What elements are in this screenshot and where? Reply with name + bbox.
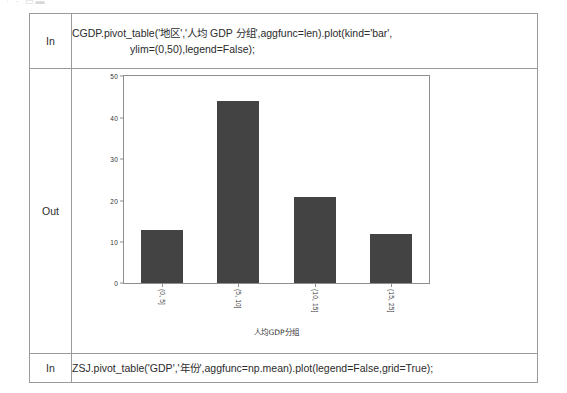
notebook-table: In CGDP.pivot_table('地区','人均 GDP 分组',agg… <box>29 13 538 383</box>
table-row-in-2: In ZSJ.pivot_table('GDP','年份',aggfunc=np… <box>30 354 538 383</box>
cell-figure-out: 01020304050(0, 5](5, 10](10, 15](15, 25]… <box>72 69 538 354</box>
clipped-header-fragment: · · ▭▬ <box>6 0 47 4</box>
y-tick-label: 30 <box>110 156 118 163</box>
code-line-1: ZSJ.pivot_table('GDP','年份',aggfunc=np.me… <box>72 362 433 374</box>
y-tick-mark <box>120 283 124 284</box>
bar <box>217 101 259 283</box>
x-tick-label: (10, 15] <box>311 289 318 313</box>
y-tick-mark <box>120 242 124 243</box>
y-tick-mark <box>120 76 124 77</box>
x-tick-mark <box>162 283 163 287</box>
table-row-out: Out 01020304050(0, 5](5, 10](10, 15](15,… <box>30 69 538 354</box>
x-tick-mark <box>391 283 392 287</box>
y-tick-label: 10 <box>110 239 118 246</box>
x-axis-label: 人均GDP分组 <box>123 326 430 337</box>
plot-area: 01020304050(0, 5](5, 10](10, 15](15, 25] <box>124 76 429 283</box>
cell-code-in-2[interactable]: ZSJ.pivot_table('GDP','年份',aggfunc=np.me… <box>72 354 538 383</box>
bar <box>370 234 412 284</box>
x-tick-label: (5, 10] <box>235 289 242 309</box>
y-tick-mark <box>120 117 124 118</box>
y-tick-label: 40 <box>110 114 118 121</box>
y-tick-label: 0 <box>114 280 118 287</box>
x-tick-mark <box>315 283 316 287</box>
y-tick-mark <box>120 200 124 201</box>
bar <box>294 197 336 284</box>
cell-code-in-1[interactable]: CGDP.pivot_table('地区','人均 GDP 分组',aggfun… <box>72 14 538 69</box>
table-row-in-1: In CGDP.pivot_table('地区','人均 GDP 分组',agg… <box>30 14 538 69</box>
x-tick-label: (0, 5] <box>159 289 166 305</box>
code-line-1: CGDP.pivot_table('地区','人均 GDP 分组',aggfun… <box>72 27 392 39</box>
y-tick-label: 20 <box>110 197 118 204</box>
bar <box>141 230 183 284</box>
cell-label-in-1: In <box>30 14 72 69</box>
x-tick-label: (15, 25] <box>387 289 394 313</box>
cell-label-out: Out <box>30 69 72 354</box>
y-tick-mark <box>120 159 124 160</box>
cell-label-in-2: In <box>30 354 72 383</box>
x-tick-mark <box>238 283 239 287</box>
y-tick-label: 50 <box>110 73 118 80</box>
bar-chart: 01020304050(0, 5](5, 10](10, 15](15, 25]… <box>72 70 537 352</box>
code-line-2: ylim=(0,50),legend=False); <box>72 41 537 57</box>
plot-frame: 01020304050(0, 5](5, 10](10, 15](15, 25] <box>123 75 430 284</box>
